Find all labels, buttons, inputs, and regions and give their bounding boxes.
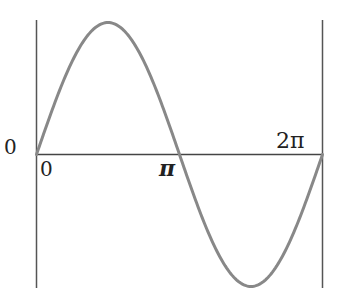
sine-chart: 0 0 π 2π [0, 0, 342, 299]
y-origin-label: 0 [4, 135, 17, 159]
x-zero-label: 0 [40, 157, 53, 181]
x-pi-label: π [158, 155, 176, 181]
x-two-pi-label: 2π [276, 128, 304, 153]
